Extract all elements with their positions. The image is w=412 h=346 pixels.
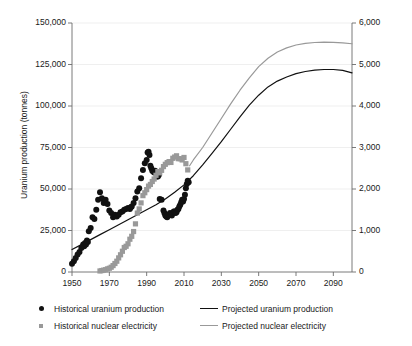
y-axis-right-tick-label: 0 (359, 266, 405, 276)
y-axis-left-tick-label: 0 (12, 266, 66, 276)
data-point (146, 152, 152, 158)
legend-item[interactable]: Projected uranium production (198, 304, 386, 314)
legend-dot-icon (30, 306, 52, 311)
data-point (133, 221, 138, 226)
data-point (138, 175, 144, 181)
legend-label: Projected nuclear electricity (220, 321, 326, 331)
data-point (104, 201, 110, 207)
legend-line-icon (198, 325, 220, 326)
data-point (185, 167, 190, 172)
chart-legend: Historical uranium productionProjected u… (30, 300, 386, 334)
data-point (88, 225, 94, 231)
x-axis-tick-label: 2010 (164, 278, 204, 288)
y-axis-left-tick-label: 50,000 (12, 183, 66, 193)
y-axis-right-tick-label: 6,000 (359, 17, 405, 27)
data-point (137, 206, 142, 211)
data-point (131, 229, 136, 234)
y-axis-left-tick-label: 75,000 (12, 142, 66, 152)
legend-item[interactable]: Historical uranium production (30, 304, 198, 314)
data-point (97, 189, 103, 195)
plot-area (0, 0, 412, 346)
legend-label: Projected uranium production (220, 304, 333, 314)
y-axis-left-tick-label: 125,000 (12, 59, 66, 69)
x-axis-tick-label: 2090 (313, 278, 353, 288)
legend-dot-glyph (39, 306, 44, 311)
y-axis-right-tick-label: 4,000 (359, 100, 405, 110)
legend-item[interactable]: Projected nuclear electricity (198, 321, 386, 331)
legend-square-icon (30, 324, 52, 328)
y-axis-left-tick-label: 100,000 (12, 100, 66, 110)
series-points-historical-uranium-production (69, 149, 192, 267)
legend-line-icon (198, 308, 220, 309)
data-point (93, 207, 99, 213)
x-axis-tick-label: 2030 (201, 278, 241, 288)
x-axis-tick-label: 2050 (239, 278, 279, 288)
data-point (181, 155, 186, 160)
legend-label: Historical uranium production (52, 304, 164, 314)
y-axis-right-tick-label: 5,000 (359, 59, 405, 69)
data-point (129, 234, 134, 239)
data-point (132, 195, 138, 201)
data-point (182, 192, 188, 198)
data-point (136, 185, 142, 191)
data-point (138, 200, 143, 205)
data-point (85, 239, 91, 245)
legend-line-glyph (200, 325, 218, 326)
data-point (159, 197, 165, 203)
data-point (125, 241, 130, 246)
x-axis-tick-label: 2070 (276, 278, 316, 288)
y-axis-left-tick-label: 150,000 (12, 17, 66, 27)
legend-label: Historical nuclear electricity (52, 321, 157, 331)
chart-figure: Uranium production (tonnes) Nuclear elec… (0, 0, 412, 346)
y-axis-right-tick-label: 3,000 (359, 142, 405, 152)
legend-line-glyph (200, 308, 218, 309)
y-axis-left-tick-label: 25,000 (12, 225, 66, 235)
data-point (186, 179, 192, 185)
series-line-projected-uranium-production (72, 69, 352, 249)
data-point (183, 161, 188, 166)
x-axis-tick-label: 1950 (52, 278, 92, 288)
y-axis-right-tick-label: 2,000 (359, 183, 405, 193)
legend-square-glyph (39, 324, 43, 328)
data-point (91, 216, 97, 222)
x-axis-tick-label: 1990 (127, 278, 167, 288)
y-axis-right-tick-label: 1,000 (359, 225, 405, 235)
legend-item[interactable]: Historical nuclear electricity (30, 321, 198, 331)
x-axis-tick-label: 1970 (89, 278, 129, 288)
data-point (140, 167, 146, 173)
